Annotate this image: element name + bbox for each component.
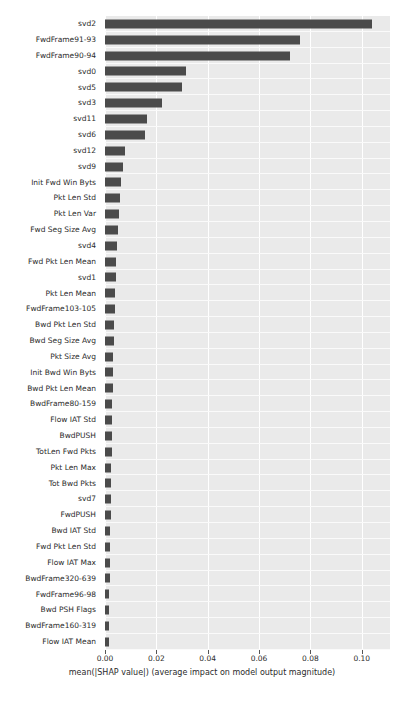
y-tick-label-row: Bwd IAT Std — [0, 523, 100, 539]
y-tick-label-row: Bwd Pkt Len Std — [0, 317, 100, 333]
y-tick-label: Bwd Pkt Len Std — [35, 321, 100, 329]
bar-row — [105, 159, 390, 175]
bar-row — [105, 206, 390, 222]
y-tick-label: svd4 — [78, 242, 100, 250]
bar-row — [105, 143, 390, 159]
bar — [105, 273, 116, 282]
y-tick-label-row: Flow IAT Max — [0, 555, 100, 571]
bar — [105, 511, 111, 520]
bar-row — [105, 523, 390, 539]
bar-row — [105, 32, 390, 48]
bar — [105, 114, 147, 123]
y-tick-label-row: FwdFrame103-105 — [0, 301, 100, 317]
bar-row — [105, 190, 390, 206]
y-tick-label: BwdFrame320-639 — [25, 575, 100, 583]
x-axis: 0.000.020.040.060.080.10 — [105, 650, 390, 670]
y-tick-label-row: Pkt Size Avg — [0, 349, 100, 365]
bar — [105, 368, 113, 377]
bar — [105, 194, 120, 203]
y-tick-label-row: svd1 — [0, 270, 100, 286]
bar-row — [105, 365, 390, 381]
y-tick-label-row: TotLen Fwd Pkts — [0, 444, 100, 460]
bar-row — [105, 333, 390, 349]
bar — [105, 447, 112, 456]
y-tick-label: Tot Bwd Pkts — [49, 480, 100, 488]
bar-row — [105, 571, 390, 587]
bar-row — [105, 475, 390, 491]
y-tick-label-row: svd9 — [0, 159, 100, 175]
y-tick-label-row: Fwd Seg Size Avg — [0, 222, 100, 238]
bar — [105, 35, 300, 44]
bar-row — [105, 301, 390, 317]
bar — [105, 574, 110, 583]
bar — [105, 384, 113, 393]
y-tick-label-row: BwdFrame80-159 — [0, 396, 100, 412]
y-tick-label-row: Pkt Len Std — [0, 190, 100, 206]
bar-row — [105, 127, 390, 143]
x-tick-label: 0.10 — [353, 655, 370, 663]
y-tick-label: FwdFrame103-105 — [26, 305, 100, 313]
bar-row — [105, 349, 390, 365]
bar-row — [105, 270, 390, 286]
y-tick-label-row: Bwd Seg Size Avg — [0, 333, 100, 349]
bar — [105, 463, 111, 472]
shap-feature-importance-chart: svd2FwdFrame91-93FwdFrame90-94svd0svd5sv… — [0, 0, 404, 701]
y-tick-label-row: Fwd Pkt Len Mean — [0, 254, 100, 270]
bar — [105, 51, 290, 60]
x-tick-label: 0.04 — [199, 655, 216, 663]
y-tick-label: FwdFrame96-98 — [36, 591, 100, 599]
y-tick-label: Bwd Seg Size Avg — [29, 337, 100, 345]
bar-row — [105, 16, 390, 32]
bar — [105, 400, 112, 409]
y-tick-label: svd11 — [73, 115, 100, 123]
bar — [105, 621, 109, 630]
y-tick-label: BwdPUSH — [60, 432, 100, 440]
bar-row — [105, 507, 390, 523]
y-tick-label-row: svd11 — [0, 111, 100, 127]
y-tick-label-row: Pkt Len Mean — [0, 285, 100, 301]
bar — [105, 99, 162, 108]
y-tick-label-row: svd6 — [0, 127, 100, 143]
bar — [105, 130, 145, 139]
bar — [105, 542, 110, 551]
y-tick-label-row: FwdPUSH — [0, 507, 100, 523]
bar-row — [105, 317, 390, 333]
y-tick-label: TotLen Fwd Pkts — [36, 448, 100, 456]
x-tick-label: 0.02 — [148, 655, 165, 663]
x-axis-title: mean(|SHAP value|) (average impact on mo… — [0, 669, 404, 677]
y-tick-label-row: FwdFrame91-93 — [0, 32, 100, 48]
bar — [105, 637, 109, 646]
y-tick-label: Init Bwd Win Byts — [30, 369, 100, 377]
bar-row — [105, 634, 390, 650]
bar-row — [105, 380, 390, 396]
y-tick-label-row: Bwd Pkt Len Mean — [0, 380, 100, 396]
y-tick-label-row: svd12 — [0, 143, 100, 159]
x-tick-label: 0.00 — [97, 655, 114, 663]
y-tick-label-row: Bwd PSH Flags — [0, 602, 100, 618]
bar — [105, 289, 115, 298]
bar — [105, 257, 116, 266]
y-tick-label: Fwd Pkt Len Std — [36, 543, 100, 551]
y-tick-label-row: svd2 — [0, 16, 100, 32]
y-tick-label-row: Fwd Pkt Len Std — [0, 539, 100, 555]
bar — [105, 479, 111, 488]
y-tick-label-row: svd0 — [0, 64, 100, 80]
bar-row — [105, 222, 390, 238]
bar — [105, 320, 114, 329]
y-tick-label: FwdPUSH — [60, 511, 100, 519]
bar — [105, 352, 113, 361]
y-tick-label-row: Tot Bwd Pkts — [0, 475, 100, 491]
y-tick-label-row: BwdPUSH — [0, 428, 100, 444]
y-tick-label: svd5 — [78, 84, 100, 92]
x-tick-label: 0.08 — [302, 655, 319, 663]
bar-row — [105, 555, 390, 571]
y-tick-label: BwdFrame80-159 — [30, 400, 100, 408]
bar-row — [105, 602, 390, 618]
bar — [105, 19, 372, 28]
y-tick-label: svd1 — [78, 274, 100, 282]
y-tick-label: Fwd Seg Size Avg — [30, 226, 100, 234]
y-tick-label: svd9 — [78, 163, 100, 171]
plot-area — [105, 16, 390, 650]
bar — [105, 336, 114, 345]
bar — [105, 83, 182, 92]
